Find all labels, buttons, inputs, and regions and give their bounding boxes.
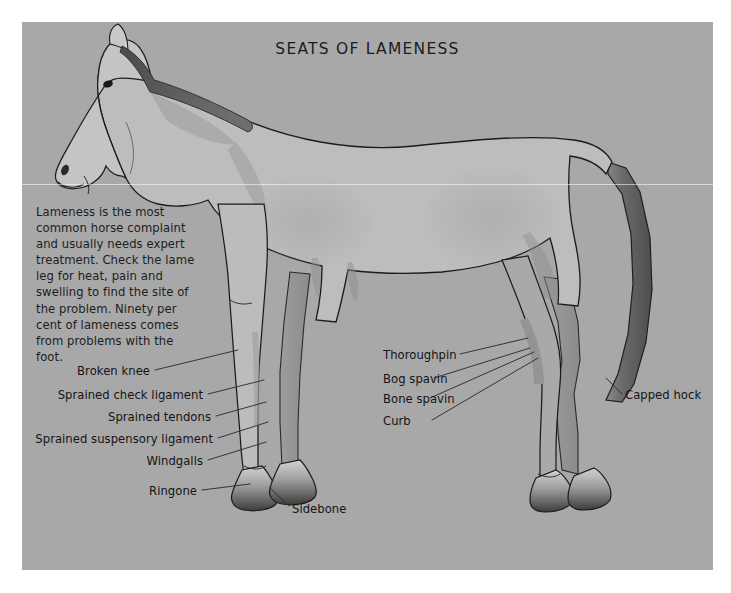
leader-curb — [432, 358, 538, 420]
annotation-sidebone: Sidebone — [292, 502, 346, 516]
annotation-bog-spavin: Bog spavin — [383, 372, 448, 386]
annotation-ringone: Ringone — [22, 484, 197, 498]
annotation-capped-hock: Capped hock — [625, 388, 701, 402]
figure-root: SEATS OF LAMENESS Lameness is the most c… — [0, 0, 731, 593]
annotation-curb: Curb — [383, 414, 411, 428]
annotation-sprained-check-ligament: Sprained check ligament — [22, 388, 203, 402]
horse-near-foreleg — [218, 204, 267, 474]
illustration-panel: SEATS OF LAMENESS Lameness is the most c… — [22, 22, 713, 570]
annotation-sprained-suspensory-ligament: Sprained suspensory ligament — [22, 432, 213, 446]
annotation-sprained-tendons: Sprained tendons — [22, 410, 211, 424]
intro-paragraph: Lameness is the most common horse compla… — [36, 204, 196, 365]
annotation-thoroughpin: Thoroughpin — [383, 348, 457, 362]
annotation-broken-knee: Broken knee — [22, 364, 150, 378]
page-title: SEATS OF LAMENESS — [22, 40, 713, 58]
horse-tail — [606, 162, 652, 402]
annotation-windgalls: Windgalls — [22, 454, 203, 468]
annotation-bone-spavin: Bone spavin — [383, 392, 455, 406]
